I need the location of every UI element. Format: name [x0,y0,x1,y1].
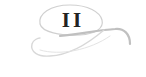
chapter-numeral: II [0,8,146,32]
